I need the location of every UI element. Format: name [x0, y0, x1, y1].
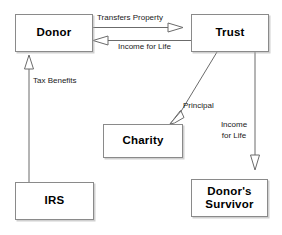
node-donor-label: Donor — [37, 26, 72, 39]
connector-principal — [170, 52, 217, 124]
node-charity-label: Charity — [122, 134, 163, 147]
node-donors-survivor[interactable]: Donor's Survivor — [191, 179, 268, 217]
edge-label-principal: Principal — [183, 101, 214, 112]
connector-tax-benefits — [25, 55, 34, 182]
node-trust-label: Trust — [215, 26, 244, 39]
node-trust[interactable]: Trust — [191, 14, 269, 52]
node-donors-survivor-label: Donor's Survivor — [205, 185, 253, 211]
edge-label-income-for-life: Income for Life — [118, 42, 171, 53]
node-irs-label: IRS — [45, 194, 65, 207]
connector-transfers-property — [93, 23, 183, 32]
node-irs[interactable]: IRS — [15, 182, 94, 220]
connector-income-for-life-survivor — [251, 52, 260, 170]
diagram-canvas: Donor Trust Charity IRS Donor's Survivor… — [0, 0, 282, 235]
node-charity[interactable]: Charity — [103, 124, 183, 158]
edge-label-tax-benefits: Tax Benefits — [33, 76, 77, 87]
node-donor[interactable]: Donor — [15, 14, 93, 52]
edge-label-income-for-life-survivor: Income for Life — [216, 120, 252, 142]
edge-label-transfers-property: Transfers Property — [97, 13, 163, 24]
